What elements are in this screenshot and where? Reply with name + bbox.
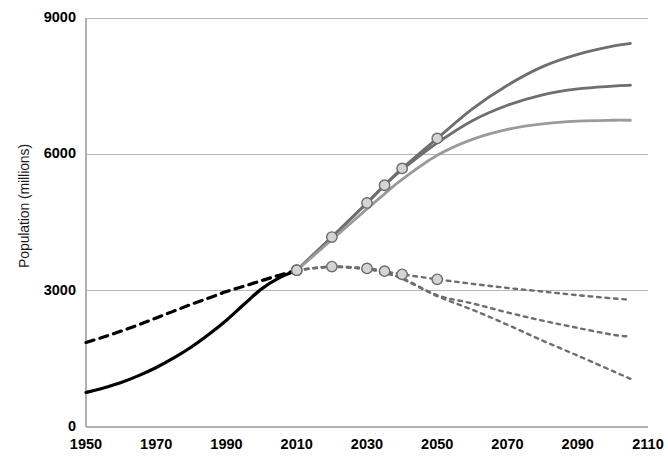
data-point-marker bbox=[327, 232, 337, 242]
data-point-marker bbox=[327, 261, 337, 271]
data-point-marker bbox=[397, 269, 407, 279]
data-point-marker bbox=[432, 274, 442, 284]
series-line-lower-projection-high bbox=[297, 267, 631, 300]
data-point-marker bbox=[379, 266, 389, 276]
data-point-marker bbox=[362, 198, 372, 208]
data-point-marker bbox=[292, 265, 302, 275]
series-line-upper-projection-medium bbox=[297, 85, 631, 270]
series-line-upper-projection-low bbox=[297, 120, 631, 270]
data-point-marker bbox=[362, 263, 372, 273]
data-point-marker bbox=[397, 163, 407, 173]
data-series bbox=[86, 43, 630, 392]
data-point-marker bbox=[379, 180, 389, 190]
data-point-marker bbox=[432, 133, 442, 143]
series-line-upper-projection-high bbox=[297, 43, 631, 270]
series-line-historical-dashed-black bbox=[86, 270, 297, 342]
axis-lines bbox=[86, 18, 648, 427]
series-line-lower-projection-medium bbox=[297, 267, 631, 337]
